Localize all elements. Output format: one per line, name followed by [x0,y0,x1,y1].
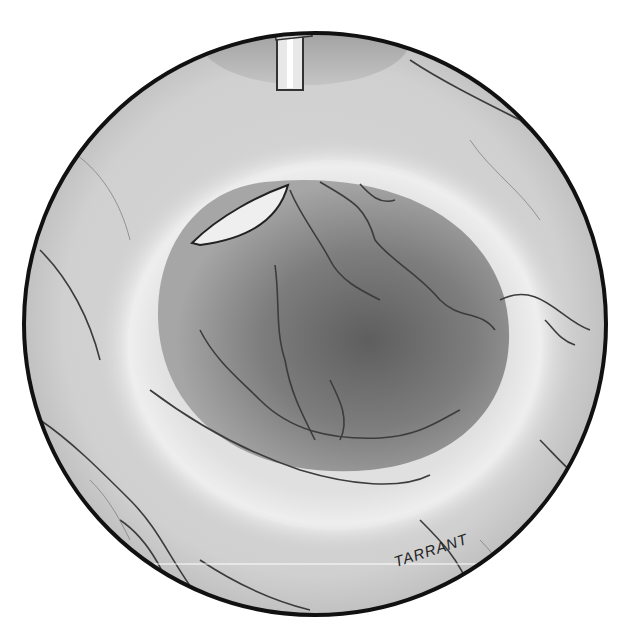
view-content [0,0,629,639]
endoscopic-view-illustration [0,0,629,639]
